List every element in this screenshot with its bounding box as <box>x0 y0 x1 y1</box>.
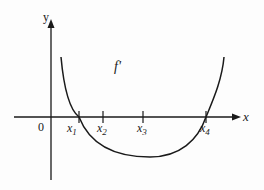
curve-f-prime <box>61 57 224 157</box>
y-axis-label: y <box>43 10 49 24</box>
derivative-graph: y x 0 f' x1 x2 x3 x4 <box>0 0 264 190</box>
x-axis-arrow-icon <box>232 114 241 121</box>
x-axis-label: x <box>242 109 249 124</box>
tick-label-x1: x1 <box>66 121 77 137</box>
tick-label-x4: x4 <box>199 121 210 137</box>
tick-label-x2: x2 <box>96 121 107 137</box>
curve-label: f' <box>114 59 122 74</box>
tick-label-x3: x3 <box>136 121 147 137</box>
origin-label: 0 <box>38 120 44 134</box>
